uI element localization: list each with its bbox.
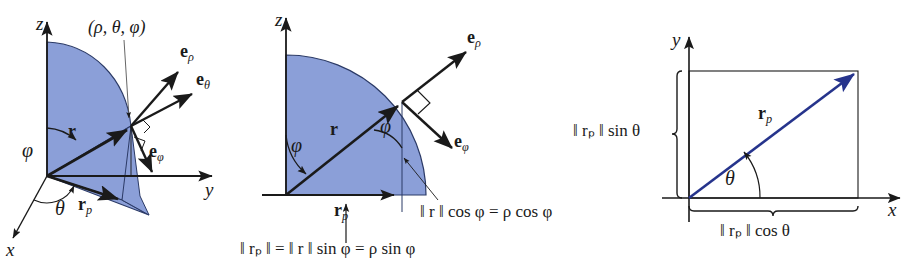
vector-r-p-label: rp [334,201,348,222]
vector-r-label: r [330,120,338,138]
panel-xy-projection: y x rp θ ‖ rₚ ‖ sin θ ‖ rₚ ‖ cos θ [600,0,921,274]
left-panel-drawing [0,0,262,274]
unit-vector-e-phi-label: eφ [454,132,469,153]
angle-theta-label: θ [725,168,735,188]
unit-vector-e-rho-label: eρ [180,42,194,63]
unit-vector-e-rho [402,52,466,102]
unit-vector-e-phi-label: eφ [149,142,164,163]
angle-phi-origin-label: φ [291,135,302,155]
y-axis-label: y [672,30,680,49]
formula-sin-phi: ‖ rₚ ‖ = ‖ r ‖ sin φ = ρ sin φ [240,240,415,257]
formula-cos-phi: ‖ r ‖ cos φ = ρ cos φ [420,203,552,220]
x-axis-label: x [888,200,896,219]
right-angle-mark-theta [143,120,150,133]
x-axis [13,176,47,238]
panel-spherical-octant: z y x (ρ, θ, φ) r rp eρ eθ eφ φ θ [0,0,262,274]
unit-vector-e-theta [131,94,192,126]
mid-panel-drawing [262,0,600,274]
label-rp-cos-theta: ‖ rₚ ‖ cos θ [720,222,790,239]
vector-r-p [689,74,854,198]
x-axis-label: x [6,240,14,259]
panel-meridian-plane: z r rp eρ eφ φ φ ‖ r ‖ cos φ = ρ cos φ ‖… [262,0,600,274]
unit-vector-e-theta-label: eθ [196,70,210,91]
quarter-disc-surface [286,55,426,195]
vector-r-label: r [68,122,76,140]
brace-vertical [672,71,682,198]
spherical-coordinates-figure: z y x (ρ, θ, φ) r rp eρ eθ eφ φ θ [0,0,921,274]
point-coordinate-label: (ρ, θ, φ) [88,18,145,36]
y-axis-label: y [205,180,213,199]
label-rp-sin-theta: ‖ rₚ ‖ sin θ [573,122,640,139]
angle-phi-label: φ [22,140,33,160]
vector-r-p-label: rp [758,104,772,125]
angle-theta-label: θ [55,198,65,218]
right-angle-mark [417,90,430,114]
angle-arc-theta [744,152,760,198]
vector-r-p-label: rp [78,195,92,216]
angle-phi-point-label: φ [380,116,391,136]
unit-vector-e-rho [131,72,178,126]
unit-vector-e-rho-label: eρ [467,28,481,49]
brace-horizontal [689,206,858,216]
z-axis-label: z [275,10,282,29]
z-axis-label: z [36,14,43,33]
